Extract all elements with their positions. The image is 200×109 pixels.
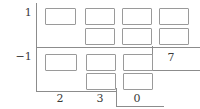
quotient-bracket-horizontal-rule — [116, 106, 164, 107]
bottom-section-vertical-rule — [36, 48, 37, 91]
quotient-bracket-vertical-rule — [116, 88, 117, 106]
answer-box-bottom-r2-c3[interactable] — [123, 73, 153, 90]
answer-box-bottom-r1-c2[interactable] — [86, 54, 116, 71]
column-label-1: 2 — [50, 93, 70, 104]
answer-box-top-r2-c2[interactable] — [85, 28, 115, 45]
answer-box-bottom-r1-c3[interactable] — [123, 54, 153, 71]
row-label-bottom: −1 — [6, 51, 32, 62]
answer-box-top-r1-c2[interactable] — [85, 8, 115, 25]
divisor-bracket-horizontal-rule — [152, 70, 200, 71]
top-section-vertical-rule — [36, 3, 37, 47]
answer-box-top-r2-c4[interactable] — [159, 28, 189, 45]
top-section-horizontal-rule — [36, 47, 200, 48]
answer-box-top-r1-c4[interactable] — [159, 8, 189, 25]
column-label-3: 0 — [127, 93, 147, 104]
row-label-top: 1 — [18, 7, 32, 18]
answer-box-top-r1-c3[interactable] — [122, 8, 152, 25]
answer-box-bottom-r2-c2[interactable] — [86, 73, 116, 90]
side-label-right: 7 — [161, 52, 181, 63]
answer-box-bottom-r1-c1[interactable] — [45, 54, 77, 71]
worksheet-diagram: 1 −1 2 3 0 7 — [0, 0, 200, 109]
bottom-section-horizontal-rule — [36, 91, 116, 92]
column-label-2: 3 — [90, 93, 110, 104]
answer-box-top-r2-c3[interactable] — [122, 28, 152, 45]
answer-box-top-r1-c1[interactable] — [45, 8, 76, 25]
